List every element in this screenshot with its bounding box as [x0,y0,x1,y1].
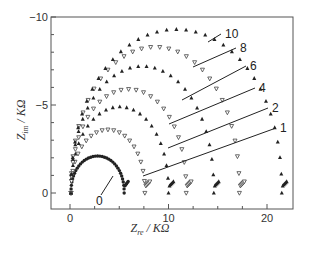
x-tick-label: 0 [67,212,73,224]
y-tick-label: −10 [29,11,48,23]
curve-label-2: 2 [168,101,279,148]
leader-arrow [182,66,246,100]
nyquist-chart: 01020−10−50 01246810 Zre / KΩ Zim / KΩ [0,0,309,253]
x-tick-label: 20 [261,212,273,224]
series-8 [69,46,246,196]
curve-label-8: 8 [193,41,247,67]
curve-label-text: 6 [250,59,257,73]
series-4 [69,88,193,196]
curve-label-text: 8 [240,41,247,55]
leader-arrow [168,108,268,148]
curve-label-text: 10 [225,27,239,41]
leader-arrow [143,128,276,176]
curve-label-text: 1 [280,121,287,135]
curve-label-10: 10 [208,27,239,42]
leader-arrow [101,176,113,195]
curve-label-text: 0 [96,194,103,208]
series-0 [69,154,130,194]
axis-ticks: 01020−10−50 [29,11,273,224]
x-axis-label: Zre / KΩ [130,221,169,237]
y-axis-label: Zim / KΩ [14,99,30,140]
data-points [69,27,289,195]
y-tick-label: −5 [35,99,48,111]
leader-arrow [193,48,236,67]
curve-label-text: 2 [272,101,279,115]
curve-label-0: 0 [96,176,113,208]
curve-label-6: 6 [182,59,257,100]
y-tick-label: 0 [42,187,48,199]
curve-label-text: 4 [259,81,266,95]
